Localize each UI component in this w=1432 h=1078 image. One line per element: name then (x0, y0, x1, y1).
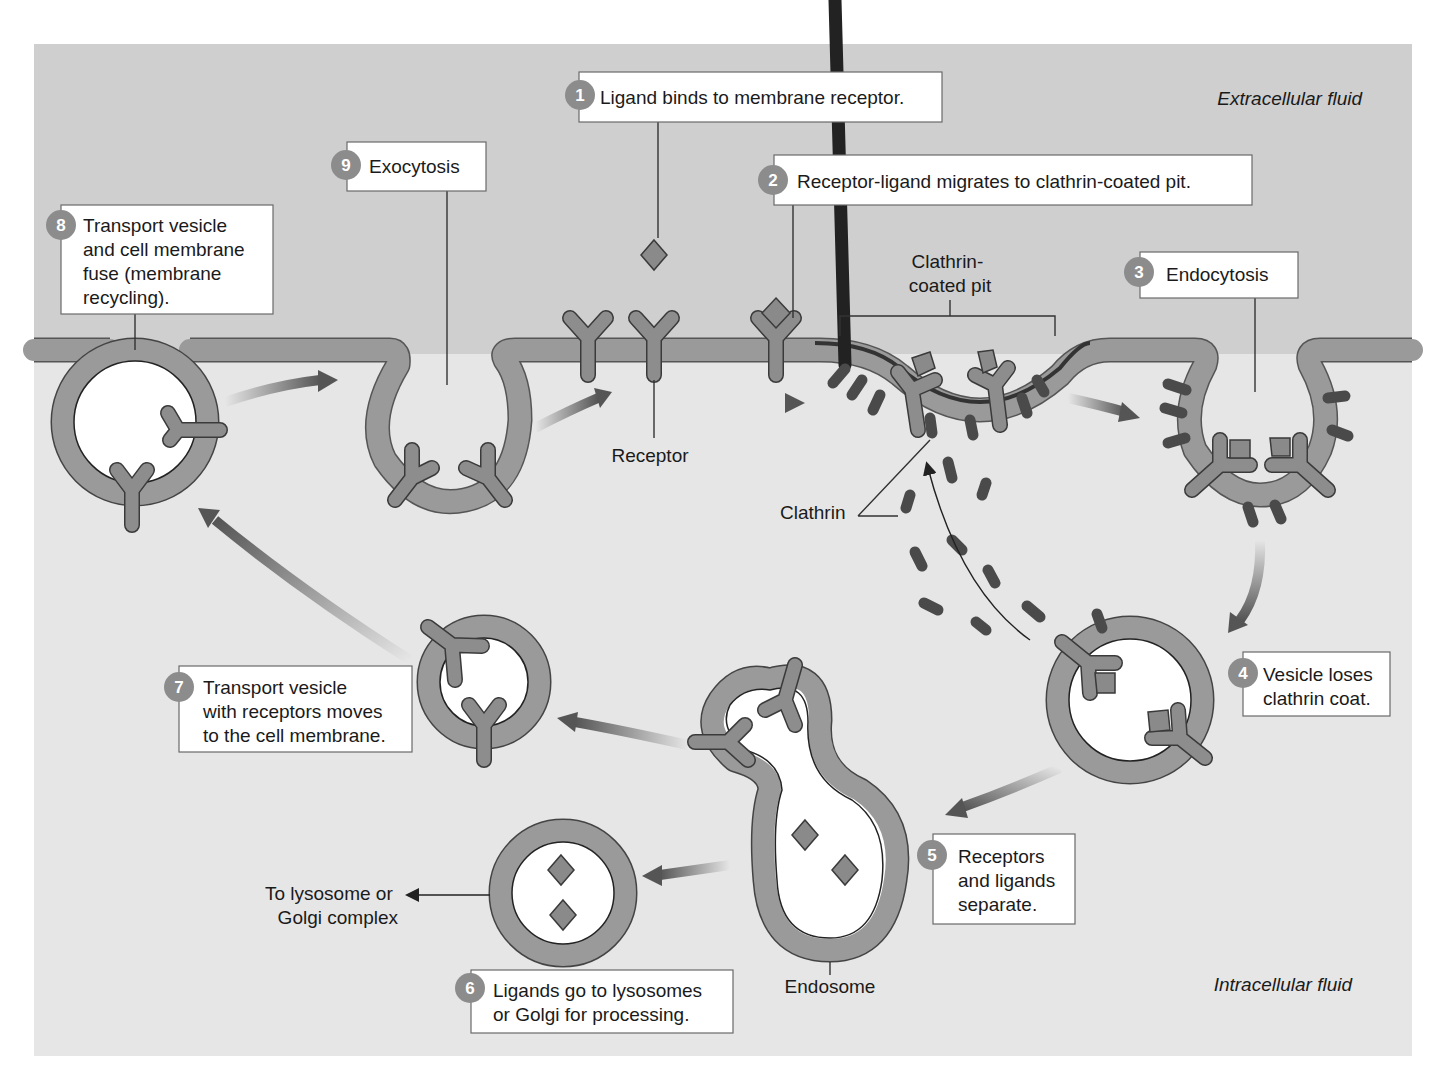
ligand-vesicle (501, 831, 625, 955)
step-9-callout: 9 Exocytosis (331, 142, 486, 191)
step-3-callout: 3 Endocytosis (1124, 252, 1298, 298)
step-1-callout: 1 Ligand binds to membrane receptor. (565, 72, 942, 122)
step-7-callout: 7 Transport vesicle with receptors moves… (164, 666, 412, 752)
step-2-callout: 2 Receptor-ligand migrates to clathrin-c… (758, 155, 1252, 205)
intracellular-fluid-label: Intracellular fluid (1214, 974, 1354, 995)
svg-text:2: 2 (768, 171, 777, 190)
extracellular-fluid-label: Extracellular fluid (1217, 88, 1363, 109)
receptor-mediated-endocytosis-diagram: Extracellular fluid Intracellular fluid … (0, 0, 1432, 1078)
svg-text:5: 5 (927, 846, 936, 865)
svg-text:Receptor-ligand migrates to cl: Receptor-ligand migrates to clathrin-coa… (797, 171, 1191, 192)
svg-text:9: 9 (341, 156, 350, 175)
step-5-callout: 5 Receptors and ligands separate. (917, 834, 1075, 924)
clathrin-label: Clathrin (780, 502, 845, 523)
svg-text:Ligand binds to membrane recep: Ligand binds to membrane receptor. (600, 87, 904, 108)
svg-text:Exocytosis: Exocytosis (369, 156, 460, 177)
step-8-callout: 8 Transport vesicle and cell membrane fu… (46, 205, 273, 314)
svg-text:4: 4 (1238, 664, 1248, 683)
uncoated-vesicle (1058, 614, 1205, 772)
svg-text:8: 8 (56, 216, 65, 235)
step-4-callout: 4 Vesicle loses clathrin coat. (1228, 652, 1390, 716)
svg-text:3: 3 (1134, 263, 1143, 282)
svg-text:6: 6 (465, 979, 474, 998)
svg-text:7: 7 (174, 678, 183, 697)
svg-text:Endocytosis: Endocytosis (1166, 264, 1268, 285)
receptor-label: Receptor (611, 445, 689, 466)
svg-text:1: 1 (575, 86, 584, 105)
step-6-callout: 6 Ligands go to lysosomes or Golgi for p… (455, 970, 733, 1033)
endosome-label: Endosome (785, 976, 876, 997)
